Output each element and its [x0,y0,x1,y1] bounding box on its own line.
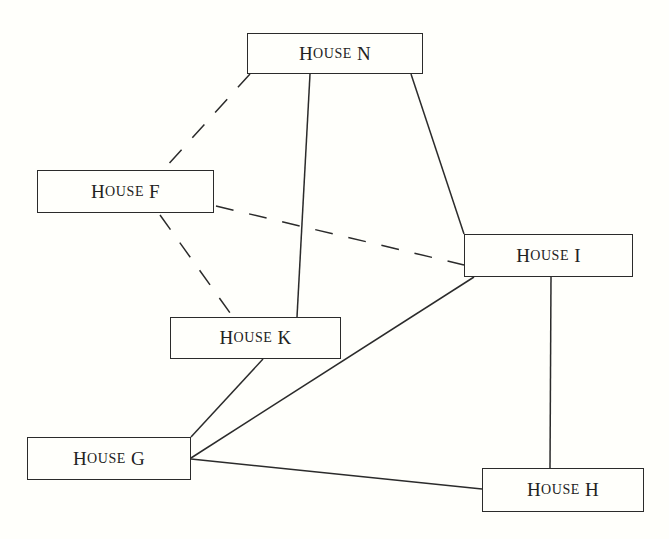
house-label-letter: H [585,479,599,501]
house-label-initial: H [219,327,233,349]
edge-n-k [297,74,310,317]
house-label-word: ouse [105,184,144,200]
house-label-word: ouse [541,482,580,498]
edge-g-h [191,459,482,489]
house-node-h: HouseH [482,468,644,512]
house-label-letter: G [131,448,145,470]
house-label-letter: K [277,327,291,349]
edge-n-f [165,74,250,168]
edge-f-i [216,206,464,265]
edge-n-i [411,74,464,234]
edge-i-g [191,277,474,458]
house-label-letter: F [149,181,160,203]
house-node-i: HouseI [464,234,633,277]
house-label-word: ouse [234,330,273,346]
edge-f-k [160,215,233,317]
house-node-f: HouseF [37,170,214,213]
house-label-initial: H [516,245,530,267]
house-label-initial: H [73,448,87,470]
house-label-initial: H [91,181,105,203]
house-label-word: ouse [530,248,569,264]
house-label-word: ouse [87,451,126,467]
edge-k-g [191,359,263,437]
house-label-letter: N [357,43,371,65]
house-label-word: ouse [313,46,352,62]
house-label-letter: I [574,245,581,267]
house-node-g: HouseG [27,437,191,480]
edge-i-h [550,277,551,468]
house-node-n: HouseN [247,33,423,74]
house-node-k: HouseK [170,317,341,359]
house-label-initial: H [299,43,313,65]
house-label-initial: H [527,479,541,501]
